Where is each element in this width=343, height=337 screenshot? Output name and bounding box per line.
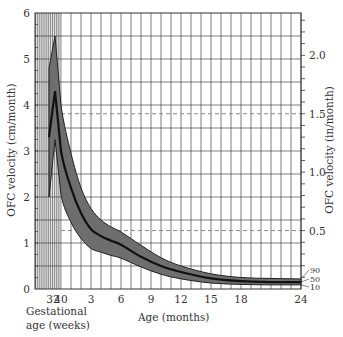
percentile-labels: 905010 (301, 266, 320, 292)
right-y-axis-ticks: 0.51.01.52.0 (301, 20, 326, 277)
x-tick: 3 (88, 293, 95, 305)
x-tick: 12 (174, 293, 187, 305)
x-tick: 9 (148, 293, 155, 305)
x-tick: 6 (118, 293, 125, 305)
y-axis-title-left: OFC velocity (cm/month) (5, 83, 17, 216)
x-axis-title-gestational-line2: age (weeks) (26, 319, 90, 331)
percentile-band-10-90 (49, 36, 301, 285)
x-tick: 18 (234, 293, 247, 305)
percentile-label: 90 (310, 266, 320, 275)
y-tick-right: 2.0 (309, 49, 326, 61)
y-tick-left: 6 (23, 7, 30, 19)
y-tick-left: 4 (23, 99, 30, 111)
x-axis-ticks: 324036912151824 (46, 293, 308, 305)
y-axis-title-right: OFC velocity (in/month) (323, 86, 335, 214)
x-tick: 15 (204, 293, 217, 305)
y-tick-left: 0 (23, 283, 30, 295)
x-axis-title: Age (months) (137, 311, 209, 323)
y-tick-left: 2 (23, 191, 30, 203)
x-tick: 40 (54, 293, 67, 305)
grid-lines (35, 13, 301, 289)
y-tick-left: 5 (23, 53, 30, 65)
y-tick-left: 3 (23, 145, 30, 157)
percentile-label: 10 (310, 283, 320, 292)
ofc-velocity-chart: 0123456 0.51.01.52.0 324036912151824 905… (0, 0, 343, 337)
x-axis-title-gestational-line1: Gestational (26, 305, 87, 317)
y-tick-right: 0.5 (309, 225, 326, 237)
y-tick-left: 1 (23, 237, 30, 249)
x-tick: 24 (294, 293, 308, 305)
median-curve (49, 91, 301, 282)
